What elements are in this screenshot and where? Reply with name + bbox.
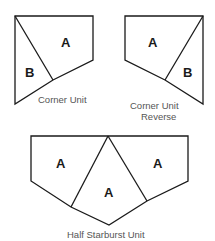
- corner-unit-reverse: A B Corner Unit Reverse: [125, 16, 203, 122]
- corner-unit-caption: Corner Unit: [38, 94, 87, 105]
- half-starburst-piece-a-left: A: [56, 156, 66, 171]
- half-starburst-piece-a-right: A: [153, 156, 163, 171]
- half-starburst-unit: A A A Half Starburst Unit: [31, 136, 188, 240]
- corner-unit-piece-b: B: [25, 65, 34, 80]
- corner-unit-reverse-outline: [125, 16, 203, 104]
- corner-unit-reverse-piece-b: B: [183, 65, 192, 80]
- quilt-units-diagram: A B Corner Unit A B Corner Unit Reverse …: [0, 0, 215, 241]
- corner-unit-reverse-piece-a: A: [148, 35, 158, 50]
- half-starburst-caption: Half Starburst Unit: [67, 229, 145, 240]
- half-starburst-outline: [31, 136, 188, 225]
- corner-unit-reverse-caption-line2: Reverse: [141, 111, 176, 122]
- corner-unit: A B Corner Unit: [15, 16, 93, 105]
- half-starburst-piece-a-center: A: [104, 185, 114, 200]
- corner-unit-piece-a: A: [61, 35, 71, 50]
- corner-unit-outline: [15, 16, 93, 104]
- corner-unit-reverse-caption-line1: Corner Unit: [130, 100, 179, 111]
